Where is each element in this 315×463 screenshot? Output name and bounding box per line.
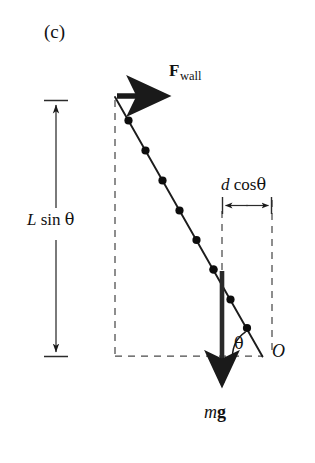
force-wall-label: Fwall bbox=[169, 62, 201, 79]
mass-point bbox=[124, 116, 132, 124]
distance-function: cos bbox=[234, 175, 257, 194]
distance-label: d cosθ bbox=[221, 176, 266, 193]
force-wall-symbol: F bbox=[169, 61, 179, 80]
force-wall-subscript: wall bbox=[180, 69, 202, 83]
mass-point bbox=[175, 206, 183, 214]
figure-canvas bbox=[0, 0, 315, 463]
rod-group bbox=[115, 97, 263, 357]
rod-line bbox=[115, 97, 263, 357]
weight-mass-symbol: m bbox=[204, 402, 217, 422]
mass-point bbox=[192, 236, 200, 244]
origin-label: O bbox=[272, 342, 285, 360]
distance-variable: d bbox=[221, 175, 230, 194]
panel-letter: (c) bbox=[44, 22, 65, 41]
height-function: sin bbox=[41, 210, 61, 229]
mass-point bbox=[141, 146, 149, 154]
distance-dimension bbox=[223, 197, 272, 214]
weight-label: mg bbox=[204, 403, 226, 421]
mass-point bbox=[158, 176, 166, 184]
mass-point bbox=[243, 324, 251, 332]
mass-point bbox=[209, 265, 218, 274]
height-label: L sin θ bbox=[27, 211, 74, 228]
weight-gravity-symbol: g bbox=[217, 402, 226, 422]
physics-figure: (c) Fwall L sin θ d cosθ θ O mg bbox=[0, 0, 315, 463]
angle-label: θ bbox=[234, 336, 244, 352]
distance-angle-symbol: θ bbox=[256, 175, 266, 194]
height-angle-symbol: θ bbox=[65, 210, 75, 229]
mass-point bbox=[226, 295, 234, 303]
